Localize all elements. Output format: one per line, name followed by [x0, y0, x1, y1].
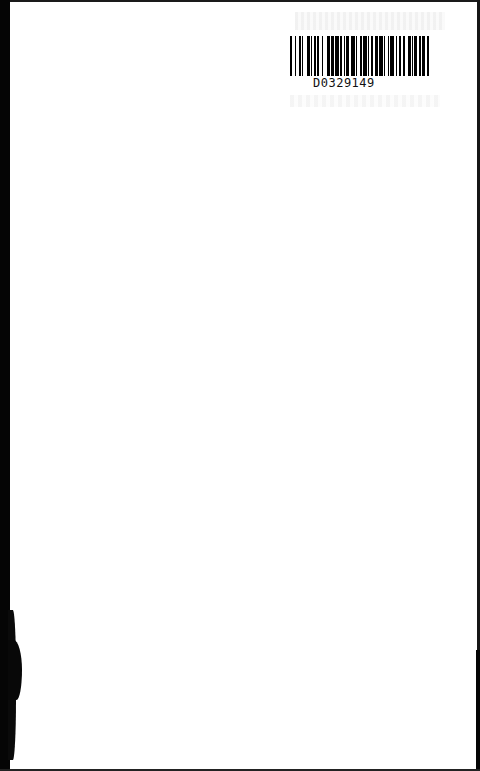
scan-top-edge [0, 0, 480, 2]
scan-left-blot [8, 640, 22, 700]
bleed-through-text-top [295, 12, 445, 30]
library-barcode [290, 36, 432, 76]
bleed-through-text-bottom [290, 95, 440, 107]
scan-right-edge-lower [476, 650, 480, 771]
barcode-space [429, 36, 431, 76]
barcode-label: D0329149 [313, 76, 375, 90]
